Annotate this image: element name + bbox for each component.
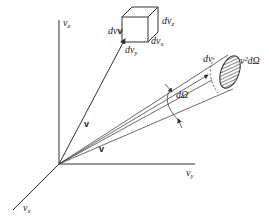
cube-edge-z-label: dvz (162, 15, 174, 28)
velocity-space-diagram: vz vy vx v dvv dvy dvx dvz v dΩ dv v²dΩ (0, 0, 269, 220)
axes: vz vy vx (13, 17, 195, 215)
cone-length-label: dv (203, 53, 213, 64)
cone-area-label: v²dΩ (240, 55, 260, 66)
vx-axis-label: vx (23, 202, 31, 215)
volume-element-cube: dvv dvy dvx dvz (108, 7, 174, 57)
vy-axis-label: vy (186, 167, 194, 180)
cube-volume-label: dvv (108, 25, 122, 36)
cube-edge-y-label: dvy (125, 44, 138, 57)
solid-angle-label: dΩ (176, 89, 188, 100)
solid-angle-cone: v dΩ dv v²dΩ (59, 53, 260, 164)
vector-label-cube: v (84, 119, 89, 129)
vz-axis-label: vz (63, 17, 70, 30)
vx-axis (13, 164, 59, 210)
velocity-vector-to-cube: v (59, 39, 125, 164)
vector-label-cone: v (99, 144, 104, 154)
cube-edge-x-label: dvx (151, 35, 164, 48)
